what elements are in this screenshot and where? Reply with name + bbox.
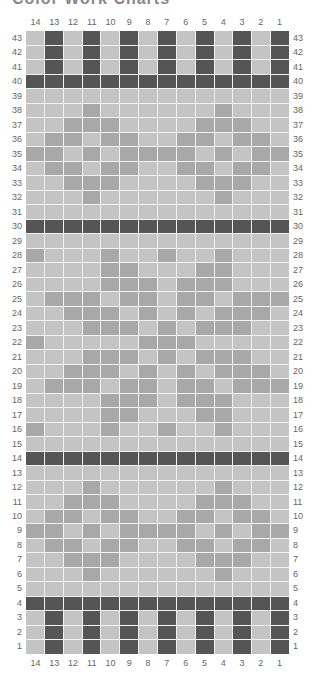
chart-cell (45, 553, 63, 567)
chart-cell (26, 220, 44, 234)
chart-cell (64, 350, 82, 364)
row-number: 6 (293, 567, 313, 581)
chart-cell (45, 46, 63, 60)
column-number: 9 (120, 17, 139, 27)
row-number: 3 (2, 610, 22, 624)
chart-cell (158, 46, 176, 60)
row-number: 35 (2, 147, 22, 161)
chart-cell (45, 220, 63, 234)
row-number: 3 (293, 610, 313, 624)
chart-cell (233, 220, 251, 234)
chart-cell (26, 191, 44, 205)
chart-cell (271, 466, 289, 480)
row-number: 23 (2, 321, 22, 335)
chart-cell (45, 321, 63, 335)
chart-cell (215, 452, 233, 466)
chart-cell (120, 133, 138, 147)
chart-cell (158, 162, 176, 176)
chart-cell (271, 133, 289, 147)
chart-cell (83, 31, 101, 45)
chart-cell (177, 321, 195, 335)
chart-cell (101, 539, 119, 553)
chart-cell (139, 220, 157, 234)
chart-cell (101, 176, 119, 190)
row-number: 34 (2, 161, 22, 175)
row-labels-right: 4342414039383736353433323130292827262524… (293, 31, 313, 654)
chart-cell (26, 394, 44, 408)
chart-cell (271, 437, 289, 451)
chart-cell (139, 452, 157, 466)
chart-cell (120, 278, 138, 292)
row-number: 16 (293, 422, 313, 436)
chart-cell (252, 481, 270, 495)
chart-cell (139, 307, 157, 321)
chart-cell (26, 234, 44, 248)
chart-cell (158, 75, 176, 89)
chart-cell (139, 104, 157, 118)
chart-cell (26, 133, 44, 147)
chart-cell (45, 510, 63, 524)
chart-cell (196, 162, 214, 176)
chart-cell (45, 278, 63, 292)
chart-cell (64, 640, 82, 654)
chart-cell (26, 495, 44, 509)
chart-title: Color Work Charts (12, 0, 170, 8)
chart-cell (139, 466, 157, 480)
chart-cell (252, 31, 270, 45)
chart-cell (177, 292, 195, 306)
chart-cell (215, 249, 233, 263)
chart-cell (139, 234, 157, 248)
chart-cell (196, 75, 214, 89)
chart-cell (177, 510, 195, 524)
row-number: 38 (2, 103, 22, 117)
chart-cell (101, 437, 119, 451)
chart-cell (101, 626, 119, 640)
chart-cell (83, 176, 101, 190)
row-number: 27 (2, 263, 22, 277)
row-number: 28 (2, 248, 22, 262)
chart-cell (45, 466, 63, 480)
chart-cell (252, 60, 270, 74)
chart-cell (26, 162, 44, 176)
knitting-chart-grid (26, 31, 289, 654)
chart-cell (215, 408, 233, 422)
chart-cell (83, 394, 101, 408)
chart-cell (45, 481, 63, 495)
chart-cell (233, 423, 251, 437)
row-number: 16 (2, 422, 22, 436)
chart-cell (83, 60, 101, 74)
chart-cell (120, 104, 138, 118)
column-number: 10 (101, 17, 120, 27)
chart-cell (120, 626, 138, 640)
chart-cell (45, 191, 63, 205)
column-number: 11 (82, 17, 101, 27)
chart-cell (64, 133, 82, 147)
chart-cell (215, 234, 233, 248)
chart-cell (120, 162, 138, 176)
chart-cell (26, 379, 44, 393)
chart-cell (64, 118, 82, 132)
chart-cell (215, 89, 233, 103)
chart-cell (83, 104, 101, 118)
row-number: 8 (2, 538, 22, 552)
chart-cell (177, 408, 195, 422)
chart-cell (83, 118, 101, 132)
column-number: 12 (64, 658, 83, 668)
chart-cell (139, 394, 157, 408)
chart-cell (215, 336, 233, 350)
chart-cell (196, 118, 214, 132)
chart-cell (83, 350, 101, 364)
chart-cell (45, 582, 63, 596)
chart-cell (233, 524, 251, 538)
row-number: 10 (293, 509, 313, 523)
chart-cell (158, 553, 176, 567)
chart-cell (271, 60, 289, 74)
chart-cell (26, 539, 44, 553)
row-number: 41 (293, 60, 313, 74)
chart-cell (196, 321, 214, 335)
chart-cell (120, 249, 138, 263)
chart-cell (215, 495, 233, 509)
chart-cell (177, 481, 195, 495)
chart-cell (64, 394, 82, 408)
chart-cell (139, 350, 157, 364)
